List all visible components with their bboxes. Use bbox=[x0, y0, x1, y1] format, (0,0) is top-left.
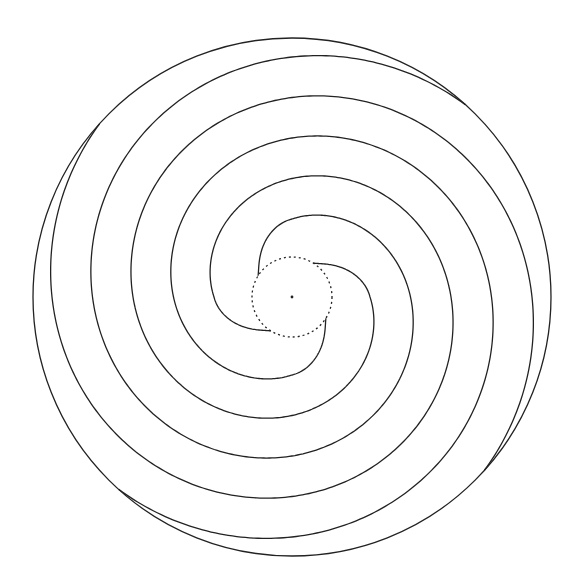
diagram-svg bbox=[0, 0, 577, 586]
spiral-arm-4 bbox=[91, 56, 465, 458]
spiral-arm-1 bbox=[131, 96, 533, 470]
center-point bbox=[291, 296, 294, 299]
spiral-diagram bbox=[0, 0, 577, 586]
spiral-arm-2 bbox=[119, 136, 493, 538]
spiral-arm-3 bbox=[51, 124, 453, 498]
